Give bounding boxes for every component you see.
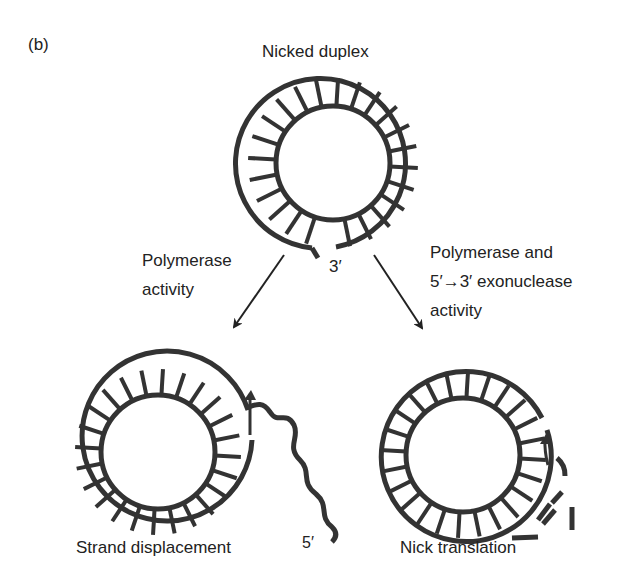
arrow-to-nick-translation xyxy=(374,255,422,328)
strand-displacement-caption-visible: Strand displacement xyxy=(76,537,231,558)
diagram-canvas xyxy=(0,0,628,571)
nicked-duplex-circle xyxy=(235,78,417,258)
arrow-to-strand-displacement xyxy=(234,255,284,327)
nick-translation-caption: Nick translation xyxy=(400,537,516,558)
